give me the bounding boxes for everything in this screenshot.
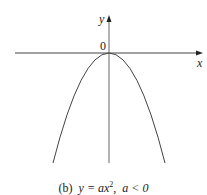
- caption-equation: y = ax: [79, 181, 110, 195]
- caption-prefix: (b): [59, 181, 73, 195]
- graph: [0, 0, 207, 195]
- x-axis-label: x: [197, 57, 202, 69]
- x-axis-arrow-icon: [196, 51, 203, 56]
- origin-label: 0: [100, 40, 106, 52]
- caption-separator: ,: [113, 181, 116, 195]
- caption-condition: a < 0: [122, 181, 148, 195]
- y-axis-arrow-icon: [107, 15, 112, 22]
- figure: y x 0 (b) y = ax2, a < 0: [0, 0, 207, 195]
- caption: (b) y = ax2, a < 0: [0, 180, 207, 195]
- y-axis-label: y: [99, 13, 104, 25]
